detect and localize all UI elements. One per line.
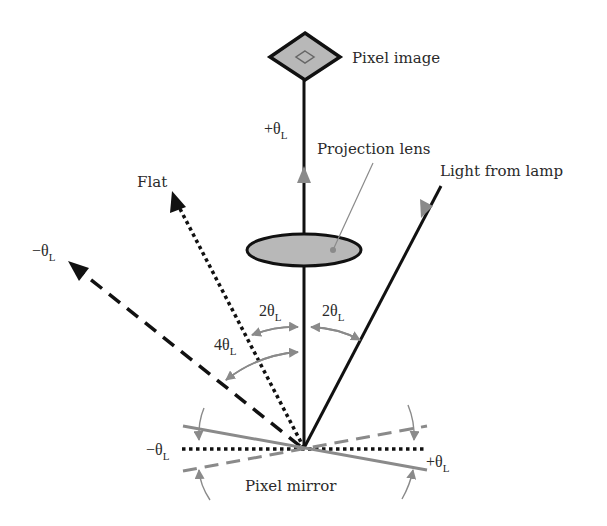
lens-leader-line xyxy=(333,163,373,250)
light-from-lamp-label: Light from lamp xyxy=(440,162,563,180)
projection-lens xyxy=(247,234,361,266)
minus-theta-left-label: −θL xyxy=(32,242,56,263)
lens-leader-dot xyxy=(330,247,336,253)
flat-label: Flat xyxy=(137,173,167,191)
projection-lens-label: Projection lens xyxy=(317,140,431,158)
up-arrow-icon xyxy=(297,166,311,183)
dmd-mirror-diagram: Pixel image Projection lens Light from l… xyxy=(0,0,607,526)
minus-theta-mirror-label: −θL xyxy=(146,441,170,462)
minus-theta-arrow-icon xyxy=(68,261,89,281)
two-theta-left-label: 2θL xyxy=(259,302,282,323)
pixel-image-icon xyxy=(270,33,340,80)
plus-theta-mirror-label: +θL xyxy=(426,453,450,474)
flat-arrow-icon xyxy=(170,191,186,213)
plus-theta-top-label: +θL xyxy=(264,120,288,141)
pixel-image-label: Pixel image xyxy=(352,49,440,67)
pixel-mirror-label: Pixel mirror xyxy=(245,477,337,495)
four-theta-label: 4θL xyxy=(214,336,237,357)
two-theta-right-label: 2θL xyxy=(322,302,345,323)
